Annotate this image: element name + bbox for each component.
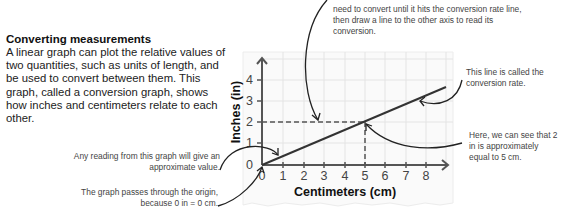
svg-text:4: 4 — [246, 73, 253, 87]
x-axis-title: Centimeters (cm) — [294, 185, 396, 199]
svg-text:3: 3 — [246, 94, 253, 108]
svg-text:7: 7 — [403, 169, 410, 183]
svg-text:1: 1 — [246, 136, 253, 150]
svg-text:0: 0 — [246, 158, 253, 172]
svg-text:3: 3 — [321, 169, 328, 183]
y-axis-title: Inches (in) — [229, 81, 243, 144]
svg-text:2: 2 — [246, 115, 253, 129]
svg-text:8: 8 — [423, 169, 430, 183]
svg-text:5: 5 — [362, 169, 369, 183]
svg-text:4: 4 — [342, 169, 349, 183]
x-tick-labels: 0 1 2 3 4 5 6 7 8 — [259, 169, 430, 183]
svg-text:1: 1 — [280, 169, 287, 183]
conversion-graph: 0 1 2 3 4 5 6 7 8 0 1 2 3 4 Centimeters … — [0, 0, 573, 218]
svg-text:6: 6 — [382, 169, 389, 183]
svg-text:0: 0 — [259, 169, 266, 183]
svg-text:2: 2 — [301, 169, 308, 183]
